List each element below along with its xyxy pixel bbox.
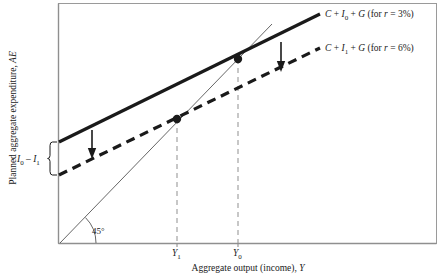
tick-label-y1: Y1 — [172, 248, 181, 261]
ae-shift-diagram: 45° I0 – I1 C + I0 + G (for r — [0, 0, 437, 275]
equilibrium-point-y0 — [234, 55, 242, 63]
investment-gap-brace-icon — [48, 142, 57, 175]
angle-label: 45° — [92, 226, 105, 236]
investment-gap-label: I0 – I1 — [16, 154, 40, 167]
y-axis-title: Planned aggregate expenditure, AE — [8, 51, 18, 185]
figure-container: 45° I0 – I1 C + I0 + G (for r — [0, 0, 437, 275]
tick-label-y0: Y0 — [233, 248, 242, 261]
equilibrium-point-y1 — [173, 115, 181, 123]
x-axis-title: Aggregate output (income), Y — [192, 263, 307, 274]
plot-frame — [59, 4, 437, 244]
